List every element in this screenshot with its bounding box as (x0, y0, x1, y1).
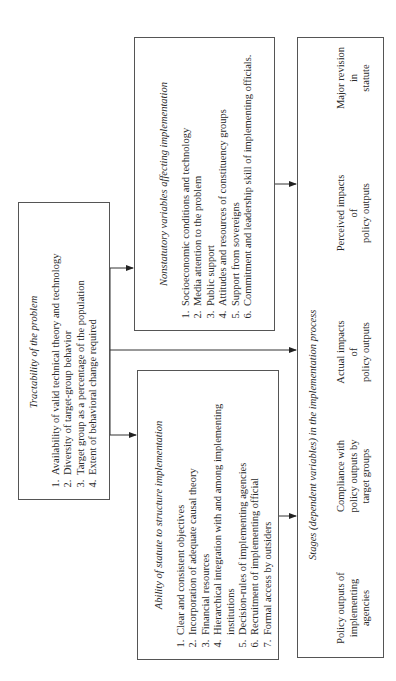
list-item: Media attention to the problem (192, 44, 204, 308)
stages-title-wrap: Stages (dependent variables) in the impl… (306, 140, 329, 560)
list-item: Public support (205, 44, 217, 308)
list-item: Extent of behavioral change required (87, 211, 99, 477)
list-item: Target group as a percentage of the popu… (75, 211, 87, 477)
tractability-title: Tractability of the problem (27, 211, 40, 493)
ability-box: Ability of statute to structure implemen… (137, 370, 279, 660)
stage-5: Major revision in statute (335, 38, 373, 118)
ability-list: Clear and consistent objectives Incorpor… (175, 377, 274, 653)
list-item: Clear and consistent objectives (175, 377, 187, 637)
list-item: Formal access by outsiders (262, 377, 274, 637)
tractability-list: Availability of valid technical theory a… (50, 211, 100, 493)
nonstatutory-title: Nonstatutory variables affecting impleme… (157, 44, 170, 324)
nonstatutory-list: Socioeconomic conditions and technology … (180, 44, 254, 324)
list-item: Incorporation of adequate causal theory (187, 377, 199, 637)
list-item: Financial resources (200, 377, 212, 637)
stage-2: Compliance with policy outputs by target… (335, 430, 373, 522)
list-item: Decision-rules of implementing agencies (237, 377, 249, 637)
list-item: Commitment and leadership skill of imple… (242, 44, 254, 308)
ability-title: Ability of statute to structure implemen… (152, 377, 165, 653)
stage-4: Perceived impacts of policy outputs (335, 168, 373, 258)
tractability-box: Tractability of the problem Availability… (18, 202, 110, 500)
stages-title: Stages (dependent variables) in the impl… (306, 140, 319, 560)
list-item: Hierarchical integration with and among … (212, 377, 237, 637)
nonstatutory-box: Nonstatutory variables affecting impleme… (134, 37, 275, 331)
list-item: Support from sovereigns (230, 44, 242, 308)
stage-3: Actual impacts of policy outputs (335, 309, 373, 395)
list-item: Availability of valid technical theory a… (50, 211, 62, 477)
list-item: Recruitment of implementing official (249, 377, 261, 637)
list-item: Socioeconomic conditions and technology (180, 44, 192, 308)
list-item: Attitudes and resources of constituency … (217, 44, 229, 308)
stage-1: Policy outputs of implementing agencies (335, 568, 373, 648)
list-item: Diversity of target-group behavior (62, 211, 74, 477)
